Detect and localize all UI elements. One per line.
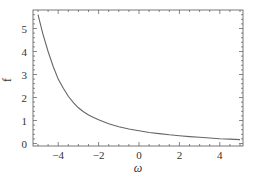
x-tick-label: −4 — [52, 149, 64, 161]
y-tick-label: 3 — [22, 69, 28, 81]
x-tick-label: 0 — [136, 149, 142, 161]
x-tick-label: −2 — [93, 149, 105, 161]
y-tick-label: 2 — [22, 92, 28, 104]
data-line — [38, 15, 240, 140]
plot-frame — [33, 10, 243, 146]
x-tick-labels: −4−2024 — [52, 149, 223, 161]
y-tick-labels: 012345 — [22, 23, 28, 150]
y-axis-label: f — [0, 78, 14, 82]
y-tick-label: 0 — [22, 138, 28, 150]
x-tick-label: 4 — [217, 149, 223, 161]
x-tick-label: 2 — [177, 149, 183, 161]
y-tick-label: 4 — [22, 46, 28, 58]
line-chart: −4−2024 012345 ω f — [0, 0, 255, 183]
y-tick-label: 1 — [22, 115, 28, 127]
y-tick-label: 5 — [22, 23, 28, 35]
x-axis-label: ω — [134, 161, 142, 175]
axis-ticks — [33, 10, 243, 146]
